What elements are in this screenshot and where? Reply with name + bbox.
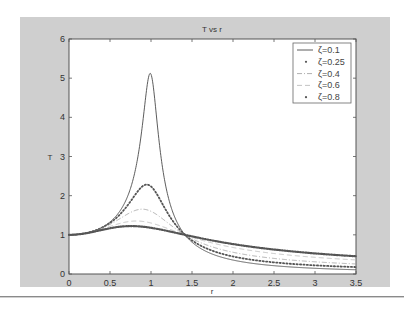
chart-title: T vs r	[202, 25, 222, 34]
legend-entry: ζ=0.6	[318, 80, 340, 90]
y-tick-label: 4	[60, 112, 65, 122]
chart: T vs r 00.511.522.533.50123456 r T ζ=0.1…	[0, 0, 409, 320]
legend-entry: ζ=0.25	[318, 57, 345, 67]
x-tick-label: 1	[148, 278, 153, 288]
legend-marker-icon	[305, 61, 307, 63]
legend-entry: ζ=0.8	[318, 92, 340, 102]
x-tick-label: 2	[230, 278, 235, 288]
x-tick-label: 3.5	[350, 278, 363, 288]
legend-entry: ζ=0.1	[318, 45, 340, 55]
legend: ζ=0.1ζ=0.25ζ=0.4ζ=0.6ζ=0.8	[293, 43, 351, 103]
legend-marker-icon	[305, 96, 307, 98]
y-tick-label: 0	[60, 269, 65, 279]
y-tick-label: 6	[60, 34, 65, 44]
legend-entry: ζ=0.4	[318, 69, 340, 79]
x-tick-label: 0	[66, 278, 71, 288]
y-axis-label: T	[48, 153, 53, 162]
x-axis-label: r	[211, 287, 214, 296]
x-tick-label: 0.5	[104, 278, 117, 288]
x-tick-label: 1.5	[186, 278, 199, 288]
y-tick-label: 1	[60, 230, 65, 240]
y-tick-label: 2	[60, 191, 65, 201]
y-tick-label: 3	[60, 152, 65, 162]
x-tick-label: 3	[312, 278, 317, 288]
y-tick-label: 5	[60, 73, 65, 83]
x-tick-label: 2.5	[268, 278, 281, 288]
